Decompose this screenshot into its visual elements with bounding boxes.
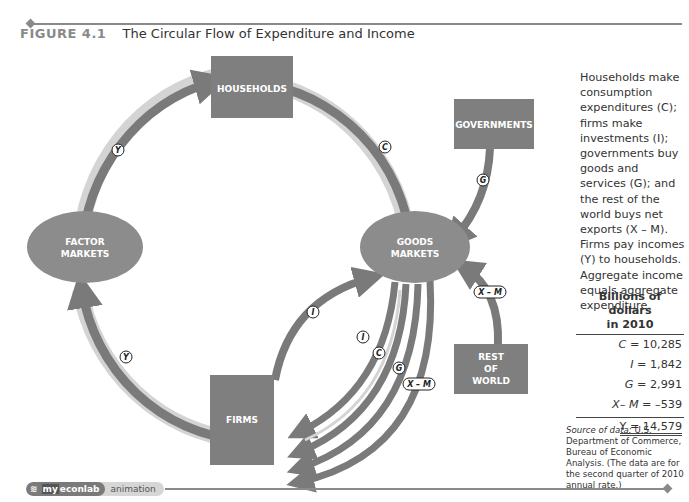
source-note: Source of data: U.S. Department of Comme… [566,425,688,491]
badge-g-gov: G [477,174,489,186]
svg-text:X – M: X – M [406,380,431,389]
svg-text:GOVERNMENTS: GOVERNMENTS [455,120,533,130]
svg-text:I: I [312,308,315,317]
svg-text:MARKETS: MARKETS [61,249,110,259]
table-row: C = 10,285 [576,335,684,355]
node-firms: FIRMS [210,375,274,465]
badge-i-inner: I [357,331,369,343]
svg-text:G: G [396,364,403,373]
badge-c-inner: C [373,347,385,359]
badge-xm-inner: X – M [403,378,435,390]
svg-text:OF: OF [484,364,498,374]
table-title-line2: in 2010 [576,318,684,332]
node-rest-of-world: REST OF WORLD [454,344,528,394]
badge-y-top: Y [112,144,124,156]
animation-label: animation [105,484,163,494]
node-goods-markets: GOODS MARKETS [360,211,470,283]
svg-text:G: G [480,176,487,185]
badge-xm-rest: X – M [474,286,506,298]
table-row: X– M = –539 [576,395,684,415]
flow-arrow-i-outer [275,278,370,380]
svg-text:GOODS: GOODS [397,237,434,247]
brand-prefix: my [42,484,59,494]
gdp-components-table: Billions of dollars in 2010 C = 10,285 I… [576,290,684,436]
flow-arrow-g-gov [455,148,490,238]
svg-text:C: C [382,143,388,152]
svg-text:I: I [362,333,365,342]
myeconlab-animation-link[interactable]: ≋ my econlab animation [26,482,164,496]
svg-text:X – M: X – M [477,288,502,297]
node-factor-markets: FACTOR MARKETS [27,211,143,283]
table-row: G = 2,991 [576,375,684,395]
table-title-line1: Billions of dollars [576,290,684,318]
table-title: Billions of dollars in 2010 [576,290,684,332]
badge-y-bottom: Y [120,351,132,363]
badge-i-outer: I [307,306,319,318]
badge-c-top: C [379,141,391,153]
svg-text:FIRMS: FIRMS [226,415,258,425]
myeconlab-logo: ≋ my econlab [26,482,105,496]
source-label: Source of data: [566,425,632,435]
swoosh-icon: ≋ [30,484,38,494]
node-households: HOUSEHOLDS [211,56,293,118]
svg-text:REST: REST [478,352,505,362]
brand-suffix: econlab [60,484,100,494]
svg-text:C: C [376,349,382,358]
svg-text:HOUSEHOLDS: HOUSEHOLDS [217,84,287,94]
badge-g-inner: G [393,362,405,374]
figure-caption: Households make consumption expenditures… [580,70,686,313]
flow-arrow-xm-rest [465,268,498,345]
node-governments: GOVERNMENTS [454,99,534,149]
svg-text:MARKETS: MARKETS [391,249,440,259]
bottom-rule [165,488,665,490]
svg-text:WORLD: WORLD [472,376,510,386]
table-row: I = 1,842 [576,355,684,375]
svg-text:FACTOR: FACTOR [65,237,104,247]
